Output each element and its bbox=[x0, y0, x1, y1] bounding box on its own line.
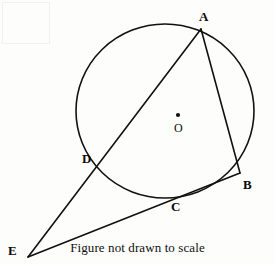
vertex-label-D: D bbox=[82, 152, 91, 165]
vertex-label-A: A bbox=[199, 10, 208, 23]
geometry-drawing bbox=[0, 0, 275, 264]
vertex-label-C: C bbox=[171, 200, 180, 213]
center-dot-O bbox=[176, 113, 180, 117]
center-label-O: O bbox=[174, 122, 183, 134]
figure-caption: Figure not drawn to scale bbox=[0, 240, 275, 256]
vertex-label-B: B bbox=[243, 178, 252, 191]
geometry-figure: A B C D E O Figure not drawn to scale bbox=[0, 0, 275, 264]
segment-A-B bbox=[201, 29, 240, 173]
circle-O bbox=[76, 24, 254, 198]
